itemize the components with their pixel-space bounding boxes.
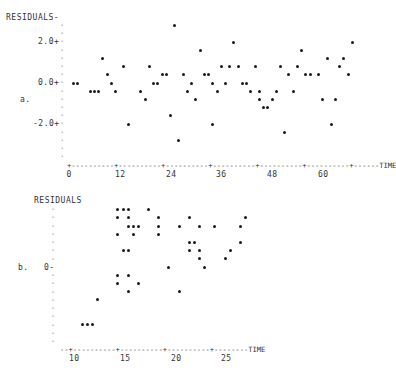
data-point bbox=[157, 225, 160, 228]
data-point bbox=[116, 282, 119, 285]
data-point bbox=[132, 233, 135, 236]
data-point bbox=[188, 216, 191, 219]
data-point bbox=[249, 90, 252, 93]
y-tick-mark: - bbox=[51, 214, 55, 221]
data-point bbox=[211, 123, 214, 126]
data-point bbox=[190, 82, 193, 85]
data-point bbox=[96, 298, 99, 301]
y-tick-mark: - bbox=[60, 104, 64, 111]
data-point bbox=[148, 65, 151, 68]
data-point bbox=[300, 49, 303, 52]
data-point bbox=[76, 82, 79, 85]
y-tick-mark: - bbox=[51, 231, 55, 238]
data-point bbox=[106, 73, 109, 76]
data-point bbox=[167, 266, 170, 269]
y-tick-mark: - bbox=[51, 289, 55, 296]
data-point bbox=[127, 216, 130, 219]
y-tick-mark: - bbox=[60, 38, 64, 45]
data-point bbox=[127, 274, 130, 277]
data-point bbox=[203, 73, 206, 76]
data-point bbox=[224, 82, 227, 85]
data-point bbox=[216, 90, 219, 93]
data-point bbox=[116, 216, 119, 219]
data-point bbox=[275, 90, 278, 93]
data-point bbox=[132, 225, 135, 228]
data-point bbox=[72, 82, 75, 85]
data-point bbox=[156, 82, 159, 85]
data-point bbox=[199, 49, 202, 52]
x-tick-label: 25 bbox=[221, 355, 232, 363]
data-point bbox=[127, 249, 130, 252]
y-tick-mark: - bbox=[60, 63, 64, 70]
x-tick-label: 48 bbox=[267, 171, 278, 179]
data-point bbox=[262, 106, 265, 109]
data-point bbox=[188, 241, 191, 244]
y-tick-mark: - bbox=[51, 338, 55, 345]
y-tick-mark: - bbox=[60, 153, 64, 160]
y-tick-mark: - bbox=[60, 129, 64, 136]
y-tick-mark: - bbox=[60, 71, 64, 78]
y-tick-mark: - bbox=[60, 79, 64, 86]
x-tick-label: 20 bbox=[171, 355, 182, 363]
data-point bbox=[245, 82, 248, 85]
data-point bbox=[228, 65, 231, 68]
chart-a-xaxis: +----------+----------+----------+------… bbox=[67, 162, 396, 170]
data-point bbox=[271, 98, 274, 101]
x-tick-label: 12 bbox=[115, 171, 126, 179]
y-tick-mark: - bbox=[51, 247, 55, 254]
y-tick-mark: - bbox=[51, 322, 55, 329]
data-point bbox=[157, 216, 160, 219]
data-point bbox=[178, 225, 181, 228]
y-tick-mark: - bbox=[51, 330, 55, 337]
data-point bbox=[347, 73, 350, 76]
x-tick-label: 10 bbox=[69, 355, 80, 363]
data-point bbox=[144, 98, 147, 101]
data-point bbox=[186, 90, 189, 93]
data-point bbox=[198, 225, 201, 228]
data-point bbox=[342, 57, 345, 60]
data-point bbox=[203, 266, 206, 269]
data-point bbox=[326, 57, 329, 60]
data-point bbox=[169, 114, 172, 117]
data-point bbox=[207, 73, 210, 76]
data-point bbox=[173, 24, 176, 27]
x-tick-label: 15 bbox=[120, 355, 131, 363]
data-point bbox=[239, 225, 242, 228]
data-point bbox=[224, 257, 227, 260]
data-point bbox=[194, 98, 197, 101]
data-point bbox=[287, 73, 290, 76]
x-tick-label: 36 bbox=[216, 171, 227, 179]
y-tick-mark: - bbox=[60, 120, 64, 127]
y-tick-mark: - bbox=[60, 47, 64, 54]
data-point bbox=[152, 82, 155, 85]
chart-b-ylabel: RESIDUALS bbox=[34, 197, 82, 205]
chart-a-ylabel: RESIDUALS- bbox=[6, 14, 59, 22]
y-tick-mark: - bbox=[60, 55, 64, 62]
chart-a-ytick-0: 0.0+ bbox=[38, 79, 59, 87]
data-point bbox=[89, 90, 92, 93]
data-point bbox=[122, 208, 125, 211]
data-point bbox=[334, 98, 337, 101]
y-tick-mark: - bbox=[51, 256, 55, 263]
data-point bbox=[258, 90, 261, 93]
y-tick-mark: - bbox=[51, 223, 55, 230]
data-point bbox=[178, 290, 181, 293]
x-tick-label: 24 bbox=[166, 171, 177, 179]
data-point bbox=[127, 208, 130, 211]
data-point bbox=[237, 65, 240, 68]
chart-b-panel-label: b. bbox=[18, 264, 29, 272]
data-point bbox=[330, 123, 333, 126]
data-point bbox=[97, 90, 100, 93]
data-point bbox=[91, 323, 94, 326]
data-point bbox=[137, 282, 140, 285]
y-tick-mark: - bbox=[51, 297, 55, 304]
y-tick-mark: - bbox=[60, 30, 64, 37]
data-point bbox=[86, 323, 89, 326]
y-tick-mark: - bbox=[51, 313, 55, 320]
data-point bbox=[198, 257, 201, 260]
data-point bbox=[279, 65, 282, 68]
data-point bbox=[244, 216, 247, 219]
y-tick-mark: - bbox=[51, 272, 55, 279]
data-point bbox=[127, 290, 130, 293]
y-tick-mark: - bbox=[51, 239, 55, 246]
